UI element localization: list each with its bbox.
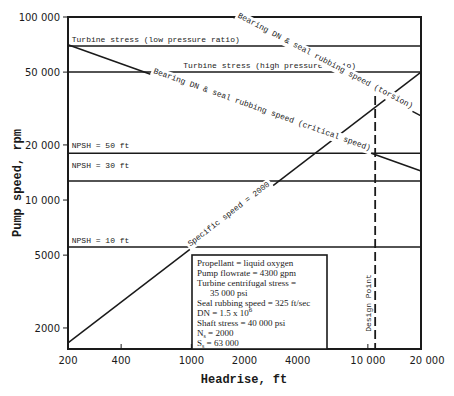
legend-line-dn: DN = 1.5 x 106 xyxy=(197,306,253,318)
label-specific-speed: Specific speed = 2000 xyxy=(186,180,272,249)
y-tick-label: 50 000 xyxy=(25,67,60,78)
label-bearing-critical: Bearing DN & seal rubbing speed (critica… xyxy=(152,66,372,152)
legend-line-seal-speed: Seal rubbing speed = 325 ft/sec xyxy=(197,298,310,308)
label-npsh-30-group: NPSH = 30 ft xyxy=(72,161,130,170)
y-tick-label: 100 000 xyxy=(19,12,60,23)
label-npsh-50: NPSH = 50 ft xyxy=(72,141,130,150)
x-tick-label: 2000 xyxy=(232,355,257,366)
label-npsh-30: NPSH = 30 ft xyxy=(72,161,130,170)
label-bearing-critical-group: Bearing DN & seal rubbing speed (critica… xyxy=(150,66,374,155)
x-axis-title: Headrise, ft xyxy=(201,373,287,387)
legend-line-flowrate: Pump flowrate = 4300 gpm xyxy=(197,268,296,278)
y-tick-label: 2000 xyxy=(35,323,60,334)
label-npsh-50-group: NPSH = 50 ft xyxy=(72,141,130,150)
legend-dn-base: DN = 1.5 x 10 xyxy=(197,308,249,318)
design-point-label: Design Point xyxy=(364,274,373,332)
x-tick-label: 10 000 xyxy=(350,355,385,366)
label-turbine-stress-low: Turbine stress (low pressure ratio) xyxy=(72,35,240,44)
y-tick-label: 20 000 xyxy=(25,140,60,151)
x-tick-label: 200 xyxy=(58,355,77,366)
y-tick-label: 10 000 xyxy=(25,195,60,206)
legend-box: Propellant = liquid oxygen Pump flowrate… xyxy=(192,255,327,349)
label-npsh-10-group: NPSH = 10 ft xyxy=(72,236,130,245)
legend-line-propellant: Propellant = liquid oxygen xyxy=(197,258,294,268)
y-axis-title: Pump speed, rpm xyxy=(11,129,25,237)
legend-ss-value: = 63 000 xyxy=(204,338,239,348)
pump-speed-vs-headrise-chart: 20040010002000400010 00020 0002000500010… xyxy=(0,0,454,396)
x-tick-label: 20 000 xyxy=(410,355,445,366)
y-tick-label: 5000 xyxy=(35,250,60,261)
legend-line-turbine-stress-value: 35 000 psi xyxy=(210,288,248,298)
label-turbine-stress-low-group: Turbine stress (low pressure ratio) xyxy=(72,35,240,44)
legend-line-shaft-stress: Shaft stress = 40 000 psi xyxy=(197,318,286,328)
legend-dn-exponent: 6 xyxy=(249,306,253,314)
x-tick-label: 400 xyxy=(112,355,131,366)
label-specific-speed-group: Specific speed = 2000 xyxy=(184,178,274,251)
x-tick-label: 1000 xyxy=(179,355,204,366)
legend-line-turbine-stress: Turbine centrifugal stress = xyxy=(197,278,296,288)
label-npsh-10: NPSH = 10 ft xyxy=(72,236,130,245)
x-tick-label: 4000 xyxy=(285,355,310,366)
legend-ns-value: = 2000 xyxy=(206,328,234,338)
